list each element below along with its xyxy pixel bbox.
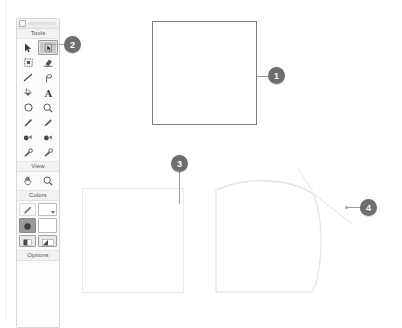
callout-marker-4[interactable]: 4 xyxy=(360,199,377,216)
section-label-options: Options xyxy=(17,250,59,261)
square-light-outline[interactable] xyxy=(82,188,184,293)
line-icon xyxy=(23,73,33,82)
text-a-icon: A xyxy=(44,88,53,98)
palette-drag-handle[interactable] xyxy=(28,22,56,25)
stamp-tool[interactable] xyxy=(38,130,58,145)
paintbrush-icon xyxy=(43,118,53,128)
section-label-colors: Colors xyxy=(17,190,59,201)
colors-block xyxy=(17,201,59,250)
rectangle-select-tool[interactable] xyxy=(18,55,38,70)
cursor-arrow-icon xyxy=(24,43,33,53)
rectangle-select-icon xyxy=(24,58,33,67)
section-label-tools: Tools xyxy=(17,29,59,39)
clone-icon xyxy=(43,148,53,157)
pointer-tool[interactable] xyxy=(18,40,38,55)
page-edge-line xyxy=(5,0,6,320)
palette-menu-icon[interactable] xyxy=(19,20,26,27)
curve-tool[interactable] xyxy=(38,70,58,85)
options-panel[interactable] xyxy=(17,261,59,327)
callout-marker-1[interactable]: 1 xyxy=(268,67,285,84)
pattern-swatch-button[interactable] xyxy=(19,235,36,247)
fgbg-row xyxy=(19,218,57,233)
ellipse-tool[interactable] xyxy=(18,100,38,115)
stamp-icon xyxy=(43,133,53,142)
curve-icon xyxy=(44,73,53,83)
svg-text:A: A xyxy=(44,88,53,98)
square-curved-top[interactable] xyxy=(214,168,364,300)
background-color-swatch[interactable] xyxy=(38,218,57,233)
paint-bucket-icon xyxy=(24,88,32,98)
tool-grid: A xyxy=(17,39,59,161)
hand-pan-icon xyxy=(23,176,33,186)
free-form-select-tool[interactable] xyxy=(38,40,58,55)
eyedropper-tool[interactable] xyxy=(18,145,38,160)
eraser-tool[interactable] xyxy=(38,55,58,70)
pencil-icon xyxy=(23,118,33,128)
pattern-row xyxy=(19,235,57,247)
square-dark-outline[interactable] xyxy=(152,21,257,125)
pattern-swatch-icon xyxy=(23,232,32,250)
pan-tool[interactable] xyxy=(18,173,38,189)
eyedropper-icon xyxy=(23,148,33,157)
magnifier-icon xyxy=(43,103,53,113)
pen-style-button[interactable] xyxy=(19,203,36,216)
magnifier-icon xyxy=(43,176,53,186)
text-tool[interactable]: A xyxy=(38,85,58,100)
fill-tool[interactable] xyxy=(18,85,38,100)
tools-palette[interactable]: Tools xyxy=(16,18,60,328)
chevron-down-icon xyxy=(51,211,55,214)
palette-titlebar[interactable] xyxy=(17,19,59,29)
stroke-row xyxy=(19,203,57,216)
magnifier-tool[interactable] xyxy=(38,100,58,115)
eraser-icon xyxy=(43,58,53,67)
zoom-tool[interactable] xyxy=(38,173,58,189)
gradient-swatch-icon xyxy=(42,232,54,250)
gradient-swatch-button[interactable] xyxy=(38,235,57,247)
callout-marker-3[interactable]: 3 xyxy=(171,155,188,172)
view-tool-grid xyxy=(17,172,59,190)
line-tool[interactable] xyxy=(18,70,38,85)
ellipse-icon xyxy=(24,103,33,112)
stroke-color-swatch[interactable] xyxy=(38,203,57,216)
airbrush-icon xyxy=(23,133,33,142)
pencil-tool[interactable] xyxy=(18,115,38,130)
foreground-color-swatch[interactable] xyxy=(19,218,36,233)
section-label-view: View xyxy=(17,161,59,172)
callout-marker-2[interactable]: 2 xyxy=(64,36,81,53)
brush-tool[interactable] xyxy=(38,115,58,130)
clone-tool[interactable] xyxy=(38,145,58,160)
callout-leader-3 xyxy=(179,168,180,204)
airbrush-tool[interactable] xyxy=(18,130,38,145)
